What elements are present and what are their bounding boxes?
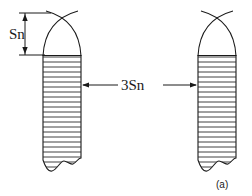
left-column-group [40,11,84,171]
left-hatching [40,57,84,167]
spacing-dimension-group: 3Sn [82,77,197,93]
right-hatching [195,57,239,167]
sn-arrowhead-bottom [22,47,27,54]
spacing-arrowhead-right [190,82,197,87]
engineering-diagram: Sn 3Sn (a) [0,0,252,196]
right-nose-arc-left [201,11,236,56]
sn-arrowhead-top [22,14,27,21]
right-nose-arc-right [198,11,233,56]
subfigure-label: (a) [216,179,228,190]
spacing-label: 3Sn [121,77,145,93]
sn-dimension-group: Sn [9,13,51,55]
left-nose-arc-left [46,11,81,56]
right-column-group [195,11,239,171]
figure-container: Sn 3Sn (a) [0,0,252,196]
spacing-arrowhead-left [82,82,89,87]
sn-label: Sn [9,26,25,42]
left-nose-arc-right [43,11,78,56]
